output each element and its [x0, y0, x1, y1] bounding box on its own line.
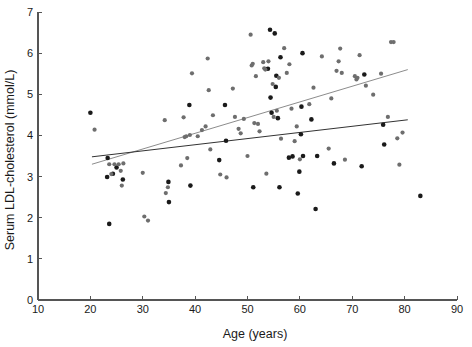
data-point: [190, 71, 194, 75]
data-point: [206, 56, 210, 60]
data-point: [109, 172, 113, 176]
data-point: [271, 82, 275, 86]
y-tick-label: 2: [27, 212, 33, 224]
data-point: [289, 107, 293, 111]
data-point: [364, 84, 368, 88]
data-point: [279, 137, 283, 141]
x-tick-label: 90: [451, 303, 463, 315]
data-point: [164, 191, 168, 195]
data-point: [297, 169, 302, 174]
plot-canvas: 10203040506070809001234567 Age (years) S…: [0, 0, 472, 347]
data-point: [146, 218, 150, 222]
data-point: [299, 104, 304, 109]
data-point: [245, 154, 249, 158]
data-point: [254, 74, 258, 78]
data-point: [301, 154, 306, 159]
data-point: [121, 177, 126, 182]
data-point: [264, 172, 268, 176]
data-point: [92, 128, 96, 132]
data-point: [119, 169, 123, 173]
data-point: [381, 122, 386, 127]
x-tick-label: 60: [294, 303, 306, 315]
data-point: [379, 72, 383, 76]
y-tick-label: 0: [27, 294, 33, 306]
y-tick-label: 7: [27, 6, 33, 18]
y-tick-label: 3: [27, 171, 33, 183]
data-point: [277, 76, 281, 80]
data-point: [290, 154, 295, 159]
data-point: [268, 27, 273, 32]
data-point: [120, 184, 124, 188]
data-point: [282, 46, 286, 50]
data-point: [400, 130, 404, 134]
data-point: [224, 175, 228, 179]
data-point: [307, 102, 311, 106]
data-point: [218, 172, 222, 176]
x-tick-label: 80: [399, 303, 411, 315]
data-point: [392, 40, 396, 44]
data-point: [200, 128, 204, 132]
data-point: [418, 194, 423, 199]
data-point: [332, 161, 337, 166]
data-point: [311, 86, 315, 90]
data-point: [179, 163, 183, 167]
data-point: [188, 133, 192, 137]
series-group: [88, 27, 423, 226]
data-point: [338, 47, 342, 51]
x-tick-label: 20: [84, 303, 96, 315]
data-point: [263, 68, 267, 72]
data-point: [88, 111, 93, 116]
data-point: [269, 111, 274, 116]
data-point: [320, 54, 324, 58]
data-point: [257, 129, 261, 133]
data-point: [251, 62, 255, 66]
data-point: [208, 147, 212, 151]
series-group: [92, 33, 404, 223]
data-point: [141, 171, 145, 175]
data-points-layer: [88, 27, 423, 226]
y-tick-label: 5: [27, 88, 33, 100]
scatter-chart-figure: 10203040506070809001234567 Age (years) S…: [0, 0, 472, 347]
data-point: [295, 124, 299, 128]
data-point: [272, 31, 277, 36]
data-point: [357, 53, 361, 57]
data-point: [340, 71, 344, 75]
data-point: [268, 95, 273, 100]
tick-labels-layer: 10203040506070809001234567: [27, 6, 463, 315]
data-point: [117, 162, 121, 166]
data-point: [105, 175, 110, 180]
x-tick-label: 10: [32, 303, 44, 315]
x-tick-label: 50: [241, 303, 253, 315]
x-tick-label: 40: [189, 303, 201, 315]
data-point: [278, 55, 283, 60]
data-point: [166, 185, 170, 189]
fit-lines-layer: [92, 70, 408, 165]
data-point: [231, 86, 235, 90]
data-point: [371, 93, 375, 97]
data-point: [276, 116, 281, 121]
data-point: [343, 158, 347, 162]
data-point: [272, 115, 276, 119]
data-point: [105, 156, 110, 161]
data-point: [293, 139, 297, 143]
data-point: [249, 33, 253, 37]
data-point: [207, 88, 211, 92]
x-tick-label: 30: [137, 303, 149, 315]
data-point: [252, 121, 256, 125]
data-point: [233, 115, 237, 119]
data-point: [211, 113, 215, 117]
data-point: [285, 71, 289, 75]
data-point: [107, 222, 112, 227]
data-point: [187, 103, 192, 108]
data-point: [142, 214, 146, 218]
data-point: [295, 191, 300, 196]
data-point: [251, 185, 256, 190]
data-point: [237, 127, 241, 131]
x-tick-label: 70: [346, 303, 358, 315]
data-point: [299, 132, 304, 137]
y-tick-label: 1: [27, 253, 33, 265]
data-point: [121, 161, 125, 165]
data-point: [287, 62, 291, 66]
regression-line-dark: [92, 120, 408, 157]
data-point: [355, 76, 359, 80]
